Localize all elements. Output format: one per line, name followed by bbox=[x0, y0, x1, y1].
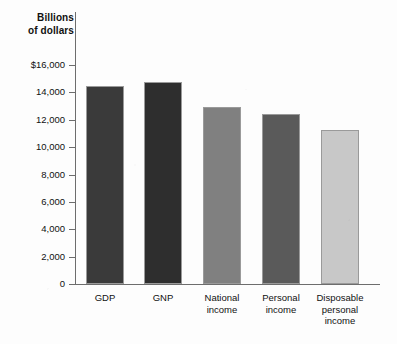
y-tick-label: 2,000 bbox=[3, 252, 65, 262]
x-category-label: Disposablepersonalincome bbox=[304, 292, 376, 327]
bar-national-income bbox=[203, 107, 241, 284]
y-tick-label: 6,000 bbox=[3, 197, 65, 207]
y-tick-mark bbox=[69, 229, 76, 230]
y-tick-mark bbox=[69, 92, 76, 93]
y-tick-mark bbox=[69, 284, 76, 285]
y-tick-label: 14,000 bbox=[3, 87, 65, 97]
x-axis-line bbox=[75, 284, 380, 285]
y-tick-label: 0 bbox=[3, 279, 65, 289]
y-tick-mark bbox=[69, 175, 76, 176]
bar-disposable-personal-income bbox=[321, 130, 359, 284]
x-category-label-line: personal bbox=[304, 304, 376, 316]
bar-gnp bbox=[144, 82, 182, 284]
y-tick-mark bbox=[69, 65, 76, 66]
chart-page: Billions of dollars 02,0004,0006,0008,00… bbox=[0, 0, 397, 344]
plot-area: 02,0004,0006,0008,00010,00012,00014,000$… bbox=[0, 0, 397, 344]
y-tick-label: $16,000 bbox=[3, 60, 65, 70]
bar-personal-income bbox=[262, 114, 300, 284]
y-tick-label: 10,000 bbox=[3, 142, 65, 152]
bar-gdp bbox=[86, 86, 124, 284]
y-tick-label: 12,000 bbox=[3, 115, 65, 125]
y-tick-mark bbox=[69, 202, 76, 203]
y-tick-mark bbox=[69, 120, 76, 121]
x-category-label-line: income bbox=[304, 315, 376, 327]
y-tick-label: 8,000 bbox=[3, 170, 65, 180]
x-category-label-line: Disposable bbox=[304, 292, 376, 304]
y-tick-label: 4,000 bbox=[3, 224, 65, 234]
y-axis-line bbox=[75, 12, 76, 285]
y-tick-mark bbox=[69, 147, 76, 148]
y-tick-mark bbox=[69, 257, 76, 258]
